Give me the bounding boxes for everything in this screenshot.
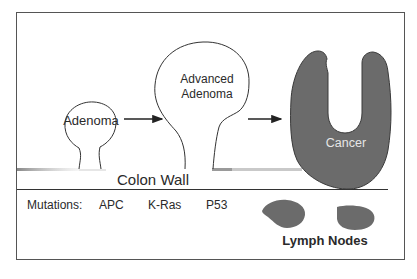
adenoma-label: Adenoma (63, 113, 119, 128)
advanced-adenoma-label-line1: Advanced (180, 72, 233, 86)
colon-cancer-progression-diagram: Adenoma Advanced Adenoma Cancer Colon Wa… (0, 0, 417, 279)
mutation-p53: P53 (206, 198, 228, 212)
mutation-k-ras: K-Ras (148, 198, 181, 212)
diagram-canvas: Adenoma Advanced Adenoma Cancer Colon Wa… (0, 0, 417, 279)
advanced-adenoma-label-line2: Adenoma (181, 87, 233, 101)
mutation-apc: APC (99, 198, 124, 212)
lymph-nodes-label: Lymph Nodes (282, 233, 367, 248)
cancer-label: Cancer (326, 136, 366, 150)
colon-wall-label: Colon Wall (117, 171, 189, 188)
mutations-label: Mutations: (27, 198, 82, 212)
